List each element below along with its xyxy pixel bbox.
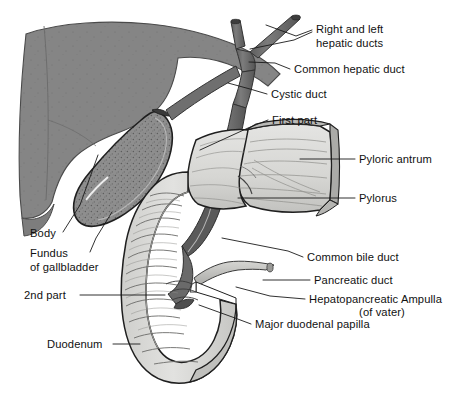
label-line: 2nd part [24,289,67,301]
label-common-hepatic-duct: Common hepatic duct [294,63,406,75]
label-line: Common hepatic duct [294,63,406,75]
label-line: Common bile duct [307,251,400,263]
label-line: Pyloric antrum [359,153,432,165]
label-line: Body [30,227,56,239]
label-line: (of vater) [359,306,405,318]
label-2nd-part: 2nd part [24,289,67,301]
label-line: Major duodenal papilla [255,318,370,330]
label-line: Right and left [316,23,384,35]
label-common-bile-duct: Common bile duct [307,251,400,263]
label-pancreatic-duct: Pancreatic duct [314,274,393,286]
left-hepatic-duct-lumen [292,15,301,20]
label-line: Duodenum [47,338,103,350]
label-major-duodenal-papilla: Major duodenal papilla [255,318,370,330]
label-line: Pancreatic duct [314,274,393,286]
label-line: Fundus [30,247,68,259]
label-line: Cystic duct [271,88,328,100]
label-body: Body [30,227,56,239]
label-pyloric-antrum: Pyloric antrum [359,153,432,165]
pancreatic-duct-lumen [267,263,273,272]
label-cystic-duct: Cystic duct [271,88,328,100]
label-first-part: First part [272,114,318,126]
label-line: Pylorus [359,192,397,204]
label-line: hepatic ducts [316,37,384,49]
anatomy-diagram: Right and lefthepatic ductsCommon hepati… [0,0,460,399]
label-line: of gallbladder [30,261,99,273]
stomach-pyloric-antrum [238,120,340,217]
label-pylorus: Pylorus [359,192,397,204]
right-hepatic-duct-lumen [231,19,240,23]
label-line: Hepatopancreatic Ampulla [309,293,443,305]
label-duodenum: Duodenum [47,338,103,350]
stomach-cut-edge-right [330,124,340,204]
label-line: First part [272,114,318,126]
